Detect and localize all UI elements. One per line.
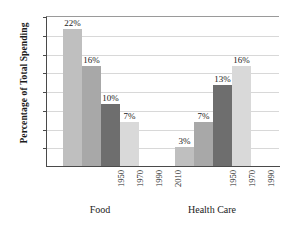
bar-value-label: 16%: [233, 55, 250, 65]
x-axis-year-label: 1990: [154, 170, 164, 210]
bar: [120, 122, 139, 166]
bar: [101, 104, 120, 167]
y-axis-tick: [43, 148, 47, 149]
bar: [232, 66, 251, 166]
x-axis-group-label: Health Care: [188, 204, 236, 215]
x-axis-year-label: 2010: [285, 170, 287, 210]
bar-value-label: 13%: [214, 74, 231, 84]
y-axis-tick: [43, 130, 47, 131]
bar-value-label: 16%: [83, 55, 100, 65]
y-axis-tick: [43, 17, 47, 18]
x-axis-year-label: 2010: [173, 170, 183, 210]
y-axis-tick: [43, 111, 47, 112]
y-axis-tick: [43, 73, 47, 74]
y-axis-tick: [43, 92, 47, 93]
bar-chart: Percentage of Total Spending 3%6%9%12%15…: [0, 0, 286, 226]
bar: [213, 85, 232, 166]
bar: [194, 122, 213, 166]
bar-value-label: 10%: [102, 93, 119, 103]
x-axis-year-label: 1950: [116, 170, 126, 210]
bar-value-label: 7%: [198, 111, 210, 121]
x-axis-line: [46, 166, 280, 167]
y-axis-tick: [43, 36, 47, 37]
x-axis-group-label: Food: [90, 204, 111, 215]
bar: [175, 147, 194, 166]
x-axis-year-label: 1970: [135, 170, 145, 210]
plot-area: 3%6%9%12%15%18%21%24%22%16%10%7%3%7%13%1…: [46, 16, 279, 166]
bar: [82, 66, 101, 166]
y-axis-tick: [43, 55, 47, 56]
y-axis-title: Percentage of Total Spending: [19, 3, 29, 163]
bar-value-label: 7%: [124, 111, 136, 121]
x-axis-year-label: 1990: [266, 170, 276, 210]
x-axis-year-label: 1970: [247, 170, 257, 210]
bar-value-label: 22%: [64, 18, 81, 28]
bar: [63, 29, 82, 167]
bar-value-label: 3%: [179, 136, 191, 146]
